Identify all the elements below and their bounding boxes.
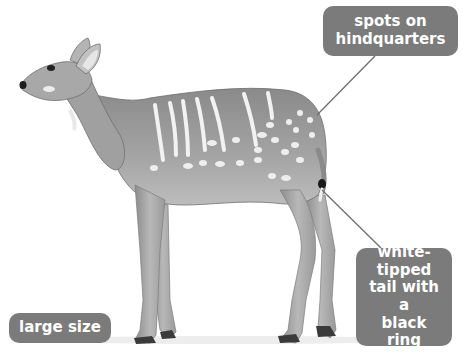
nose [20,81,27,89]
label-text: white- tipped tail with a black ring [362,244,446,350]
throat-patch [70,110,75,130]
label-spots-on-hindquarters: spots on hindquarters [323,6,458,56]
label-text: spots on hindquarters [336,13,446,48]
label-white-tipped-tail: white- tipped tail with a black ring [356,248,452,346]
diagram-stage: spots on hindquarters white- tipped tail… [0,0,463,355]
leader-line-spots [317,56,375,115]
antelope-body [95,88,326,205]
label-large-size: large size [9,313,111,343]
eye [47,65,55,71]
cheek-patch [43,86,55,92]
tail-white-tip [320,189,322,200]
label-text: large size [19,319,101,337]
